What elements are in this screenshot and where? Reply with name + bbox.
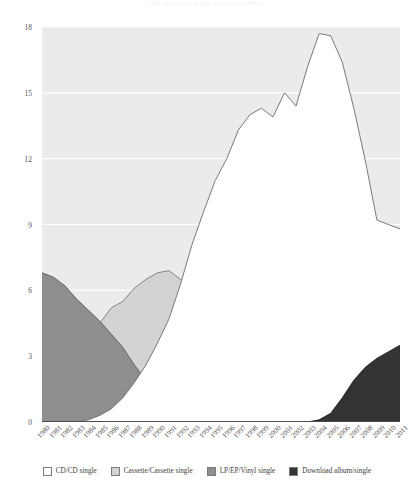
legend-swatch-icon xyxy=(207,467,216,476)
y-axis-tick-12: 12 xyxy=(25,154,33,163)
y-axis-tick-3: 3 xyxy=(28,352,32,361)
plot-area xyxy=(42,27,400,422)
legend-item-0[interactable]: CD/CD single xyxy=(43,466,97,476)
legend-label: Download album/single xyxy=(302,466,371,476)
legend-item-2[interactable]: LP/EP/Vinyl single xyxy=(207,466,276,476)
chart-title: UK recorded music sales by format xyxy=(0,0,414,8)
chart-container: UK recorded music sales by format 181512… xyxy=(0,0,414,495)
y-axis-tick-15: 15 xyxy=(25,88,33,97)
y-axis-tick-9: 9 xyxy=(28,220,32,229)
legend-label: Cassette/Cassette single xyxy=(124,466,193,476)
y-axis-tick-6: 6 xyxy=(28,286,32,295)
legend-swatch-icon xyxy=(43,467,52,476)
chart-legend: CD/CD singleCassette/Cassette singleLP/E… xyxy=(0,466,414,488)
y-axis-tick-0: 0 xyxy=(28,418,32,427)
y-axis-tick-18: 18 xyxy=(25,23,33,32)
legend-swatch-icon xyxy=(111,467,120,476)
x-axis: 1980198119821983198419851986198719881989… xyxy=(42,424,400,464)
area-chart-svg xyxy=(42,27,400,422)
x-axis-tick-2011: 2011 xyxy=(394,424,410,440)
y-axis: 1815129630 xyxy=(0,27,36,422)
legend-item-1[interactable]: Cassette/Cassette single xyxy=(111,466,193,476)
legend-label: LP/EP/Vinyl single xyxy=(220,466,276,476)
legend-item-3[interactable]: Download album/single xyxy=(289,466,371,476)
legend-label: CD/CD single xyxy=(56,466,97,476)
legend-swatch-icon xyxy=(289,467,298,476)
